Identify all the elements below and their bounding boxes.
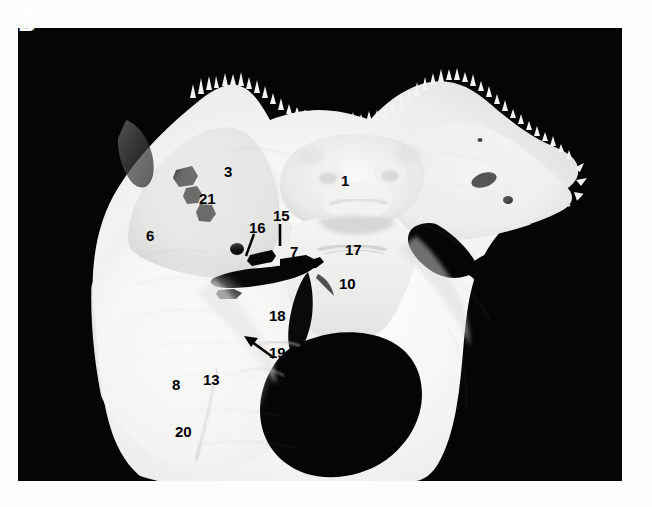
- figure-root: 1 3 6 7 8 10 13 15 16 17 18 19 20 21 B: [0, 0, 652, 507]
- label-20: 20: [175, 424, 192, 439]
- label-16: 16: [249, 220, 266, 235]
- label-1: 1: [341, 173, 349, 188]
- label-6: 6: [146, 228, 154, 243]
- label-15: 15: [273, 208, 290, 223]
- label-19: 19: [269, 345, 286, 360]
- leader-lines: [18, 28, 622, 481]
- label-18: 18: [269, 308, 286, 323]
- label-13: 13: [203, 372, 220, 387]
- label-17: 17: [345, 242, 362, 257]
- label-3: 3: [224, 164, 232, 179]
- label-7: 7: [290, 244, 298, 259]
- label-8: 8: [172, 377, 180, 392]
- specimen-photograph: 1 3 6 7 8 10 13 15 16 17 18 19 20 21: [18, 28, 622, 481]
- panel-letter: B: [18, 10, 37, 35]
- label-10: 10: [339, 276, 356, 291]
- leader-line-16: [246, 234, 254, 256]
- label-21: 21: [199, 191, 216, 206]
